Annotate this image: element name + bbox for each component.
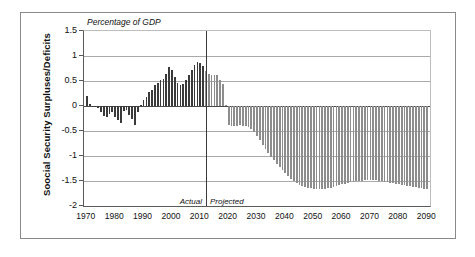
bar — [225, 105, 227, 107]
bar — [219, 80, 221, 106]
bar — [404, 106, 406, 185]
y-tick-mark — [79, 105, 83, 106]
bar — [134, 106, 136, 125]
bar — [316, 106, 318, 189]
bar — [120, 106, 122, 123]
bar — [279, 106, 281, 167]
gridline-0.5 — [84, 81, 430, 82]
bar — [248, 106, 250, 127]
bar — [163, 79, 165, 107]
bar — [392, 106, 394, 183]
bar — [242, 106, 244, 126]
bar — [395, 106, 397, 184]
bar — [165, 74, 167, 107]
bar — [143, 100, 145, 106]
x-tick-label: 2010 — [190, 211, 209, 221]
bar — [250, 106, 252, 129]
bar — [253, 106, 255, 132]
y-tick-label: 1 — [47, 50, 77, 60]
bar — [148, 92, 150, 106]
bar — [128, 106, 130, 115]
y-tick-mark — [79, 80, 83, 81]
bar — [426, 106, 428, 189]
bar — [367, 106, 369, 180]
bar — [211, 75, 213, 106]
x-tick-label: 2000 — [161, 211, 180, 221]
bar — [370, 106, 372, 180]
bar — [313, 106, 315, 189]
bar — [259, 106, 261, 140]
bar — [208, 74, 210, 106]
bar — [267, 106, 269, 153]
bar — [256, 106, 258, 136]
bar — [364, 106, 366, 180]
y-tick-mark — [79, 55, 83, 56]
gridline-1 — [84, 56, 430, 57]
gridline--1.5 — [84, 181, 430, 182]
bar — [171, 70, 173, 106]
bar — [180, 85, 182, 106]
y-tick-label: 0.5 — [47, 75, 77, 85]
bar — [333, 106, 335, 187]
plot-area: ActualProjected — [83, 30, 431, 207]
bar — [418, 106, 420, 188]
bar — [117, 106, 119, 120]
bar — [231, 106, 233, 126]
bar — [262, 106, 264, 145]
plot-title: Percentage of GDP — [87, 17, 161, 27]
bar — [338, 106, 340, 185]
y-tick-mark — [79, 180, 83, 181]
bar — [284, 106, 286, 173]
bar — [381, 106, 383, 181]
bar — [412, 106, 414, 187]
bar — [307, 106, 309, 188]
bar — [106, 106, 108, 117]
bar — [92, 106, 94, 107]
bar — [301, 106, 303, 186]
bar — [265, 106, 267, 149]
bar — [344, 106, 346, 184]
bar — [299, 106, 301, 185]
bar — [353, 106, 355, 182]
bar — [126, 106, 128, 110]
bar — [310, 106, 312, 188]
y-tick-label: -0.5 — [47, 125, 77, 135]
bar — [100, 106, 102, 112]
x-tick-label: 2080 — [388, 211, 407, 221]
y-tick-label: -2 — [47, 200, 77, 210]
x-tick-label: 2020 — [218, 211, 237, 221]
x-tick-label: 2050 — [303, 211, 322, 221]
bar — [245, 106, 247, 126]
bar — [86, 96, 88, 107]
bar — [137, 106, 139, 112]
bar — [409, 106, 411, 186]
bar — [233, 106, 235, 126]
bar — [372, 106, 374, 180]
chart-figure: Soocial Security Surpluses/Deficits Perc… — [20, 12, 456, 239]
bar — [97, 106, 99, 108]
bar — [350, 106, 352, 182]
bar — [216, 75, 218, 106]
bar — [177, 83, 179, 107]
bar — [296, 106, 298, 183]
bar — [293, 106, 295, 181]
bar — [168, 67, 170, 106]
bar — [151, 90, 153, 107]
phase-label-actual: Actual — [180, 197, 202, 206]
y-tick-label: 1.5 — [47, 25, 77, 35]
bar — [401, 106, 403, 185]
bar — [154, 85, 156, 107]
bar — [276, 106, 278, 164]
bar — [194, 65, 196, 106]
y-tick-mark — [79, 30, 83, 31]
bar — [375, 106, 377, 180]
bar — [114, 106, 116, 117]
bar — [287, 106, 289, 176]
actual-projected-divider — [206, 31, 207, 206]
bar — [182, 84, 184, 106]
bar — [398, 106, 400, 184]
bar — [423, 106, 425, 189]
bar — [89, 104, 91, 107]
bar — [330, 106, 332, 188]
bar — [273, 106, 275, 160]
